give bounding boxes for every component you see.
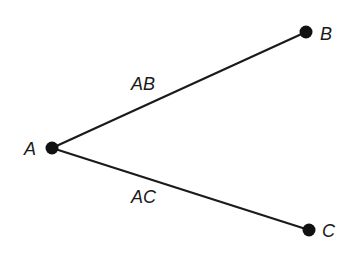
node-a: [46, 142, 59, 155]
edge-ac: [52, 148, 309, 230]
edge-ac-label: AC: [130, 187, 157, 207]
node-c-label: C: [322, 221, 336, 241]
graph-diagram: A B C AB AC: [0, 0, 359, 256]
node-b-label: B: [320, 24, 332, 44]
edge-ab-label: AB: [130, 74, 155, 94]
node-c: [303, 224, 316, 237]
node-b: [300, 26, 313, 39]
edge-ab: [52, 32, 306, 148]
node-a-label: A: [23, 139, 36, 159]
